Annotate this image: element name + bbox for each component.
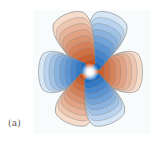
contour-plot xyxy=(0,0,155,144)
panel-label: (a) xyxy=(8,118,21,128)
nodal-center-glow xyxy=(81,63,99,81)
orbital-contour-figure: (a) xyxy=(0,0,155,144)
